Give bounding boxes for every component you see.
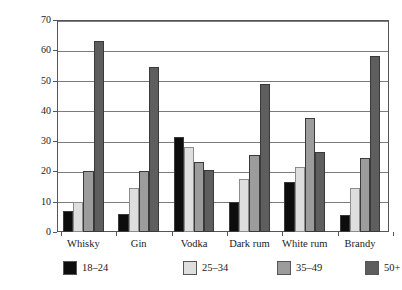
bar [204,170,214,232]
legend-item-18-24[interactable]: 18–24 [63,261,108,275]
bar [305,118,315,232]
bar [340,215,350,232]
legend-label: 50+ [384,262,400,274]
bar [94,41,104,232]
y-tick-mark-0 [53,232,57,233]
y-tick-label-40: 40 [25,106,51,116]
bar-chart: weekly drinkers % 010203040506070 Whisky… [0,0,402,290]
legend-label: 18–24 [82,262,108,274]
x-tick-mark-end [393,232,394,236]
bar [63,211,73,232]
legend-item-25-34[interactable]: 25–34 [183,261,228,275]
bar [249,155,259,232]
legend-item-50+[interactable]: 50+ [365,261,400,275]
x-tick-mark-4 [282,232,283,236]
y-tick-label-20: 20 [25,166,51,176]
bar [370,56,380,232]
y-tick-label-0: 0 [25,227,51,237]
x-tick-mark-1 [116,232,117,236]
y-tick-label-70: 70 [25,15,51,25]
bar [194,162,204,232]
x-tick-mark-5 [338,232,339,236]
bar [129,188,139,232]
bar [260,84,270,232]
bars-layer [57,20,389,232]
bar [73,202,83,232]
legend-swatch-icon [277,261,291,275]
bar [184,147,194,232]
bar [315,152,325,232]
y-tick-label-50: 50 [25,76,51,86]
bar [174,137,184,232]
legend-label: 25–34 [202,262,228,274]
y-tick-label-30: 30 [25,136,51,146]
bar [149,67,159,232]
x-tick-mark-0 [61,232,62,236]
bar [295,167,305,232]
bar [139,171,149,232]
legend-label: 35–49 [296,262,322,274]
x-tick-mark-3 [227,232,228,236]
bar [83,171,93,232]
y-tick-label-10: 10 [25,197,51,207]
x-tick-mark-2 [172,232,173,236]
bar [360,158,370,232]
bar [118,214,128,232]
bar [284,182,294,232]
legend-swatch-icon [63,261,77,275]
y-tick-label-60: 60 [25,45,51,55]
legend-swatch-icon [365,261,379,275]
bar [239,179,249,232]
legend-swatch-icon [183,261,197,275]
legend-item-35-49[interactable]: 35–49 [277,261,322,275]
x-axis-label-brandy: Brandy [320,237,400,250]
chart-legend: 18–2425–3435–4950+ [57,261,389,281]
bar [229,202,239,232]
bar [350,188,360,232]
